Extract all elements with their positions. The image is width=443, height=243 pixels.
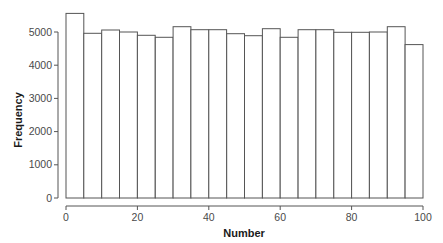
histogram-bar <box>84 33 102 198</box>
x-tick-label: 80 <box>346 211 358 223</box>
histogram-bar <box>369 32 387 198</box>
histogram-bar <box>334 32 352 198</box>
histogram-bar <box>120 32 138 198</box>
x-tick-label: 0 <box>63 211 69 223</box>
histogram-bar <box>66 13 84 198</box>
histogram-bar <box>387 27 405 198</box>
y-tick-label: 0 <box>46 192 52 204</box>
x-tick-label: 20 <box>132 211 144 223</box>
x-axis-title: Number <box>223 227 265 239</box>
histogram-bar <box>137 35 155 198</box>
histogram-bar <box>245 36 263 198</box>
histogram-bar <box>280 37 298 198</box>
histogram-bars <box>66 13 423 198</box>
histogram-bar <box>262 29 280 198</box>
histogram-bar <box>298 30 316 198</box>
histogram-bar <box>191 30 209 198</box>
x-tick-label: 40 <box>203 211 215 223</box>
histogram-bar <box>405 45 423 198</box>
histogram-bar <box>316 30 334 198</box>
histogram-bar <box>173 27 191 198</box>
y-tick-label: 1000 <box>29 158 53 170</box>
histogram-bar <box>102 30 120 198</box>
x-axis: 020406080100 <box>63 206 432 223</box>
y-axis: 010002000300040005000 <box>29 26 58 204</box>
x-tick-label: 60 <box>274 211 286 223</box>
histogram-bar <box>155 37 173 198</box>
histogram-chart: 010002000300040005000 020406080100 Frequ… <box>0 0 443 243</box>
histogram-bar <box>352 32 370 198</box>
histogram-bar <box>209 30 227 198</box>
histogram-bar <box>227 34 245 198</box>
x-tick-label: 100 <box>414 211 432 223</box>
y-tick-label: 3000 <box>29 92 53 104</box>
y-axis-title: Frequency <box>12 91 24 148</box>
y-tick-label: 5000 <box>29 26 53 38</box>
y-tick-label: 4000 <box>29 59 53 71</box>
y-tick-label: 2000 <box>29 125 53 137</box>
